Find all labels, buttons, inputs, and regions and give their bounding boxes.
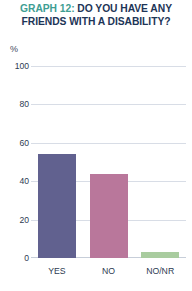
- gridline: [31, 104, 186, 105]
- y-axis-tick-label: 20: [1, 215, 29, 225]
- x-axis-category-label: NO: [83, 266, 135, 276]
- plot-area: [31, 66, 186, 258]
- bar: [38, 154, 76, 258]
- gridline: [31, 66, 186, 67]
- chart-card: GRAPH 12: DO YOU HAVE ANY FRIENDS WITH A…: [0, 0, 192, 291]
- gridline: [31, 143, 186, 144]
- chart-title: GRAPH 12: DO YOU HAVE ANY FRIENDS WITH A…: [0, 3, 192, 28]
- y-axis-tick-label: 100: [1, 61, 29, 71]
- y-axis-unit-label: %: [10, 44, 18, 54]
- bar: [141, 252, 179, 258]
- y-axis-tick-label: 60: [1, 138, 29, 148]
- x-axis-labels: YESNONO/NR: [31, 266, 186, 282]
- y-axis-tick-label: 40: [1, 176, 29, 186]
- x-axis-category-label: NO/NR: [134, 266, 186, 276]
- x-axis-category-label: YES: [31, 266, 83, 276]
- y-axis-tick-label: 0: [1, 253, 29, 263]
- y-axis-tick-label: 80: [1, 99, 29, 109]
- chart-title-line-2: FRIENDS WITH A DISABILITY?: [0, 16, 192, 29]
- chart-title-line-1-rest: DO YOU HAVE ANY: [75, 3, 172, 14]
- graph-number-label: GRAPH 12:: [20, 3, 74, 14]
- bar: [90, 174, 128, 258]
- y-axis: 020406080100: [0, 66, 29, 258]
- chart-title-line-1: GRAPH 12: DO YOU HAVE ANY: [0, 3, 192, 16]
